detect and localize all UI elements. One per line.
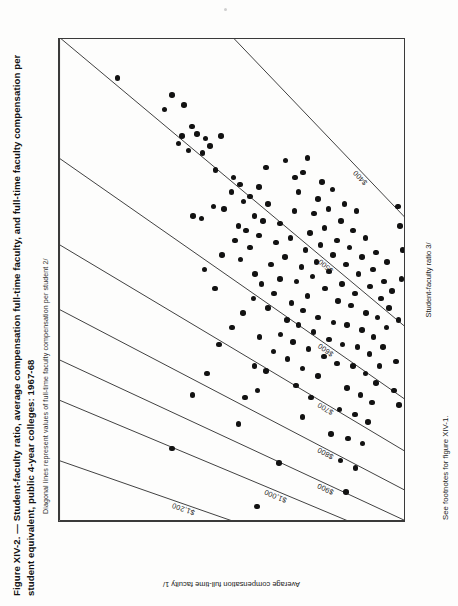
data-point xyxy=(314,259,320,265)
data-point xyxy=(393,359,399,365)
data-point xyxy=(256,233,262,239)
data-point xyxy=(254,504,260,510)
data-point xyxy=(273,240,279,246)
iso-compensation-line xyxy=(59,461,233,522)
data-point xyxy=(169,446,175,452)
y-axis-tick xyxy=(290,521,291,522)
iso-compensation-line xyxy=(59,360,405,521)
y-axis-caption: Average compensation full-time faculty 1… xyxy=(58,578,405,592)
data-point xyxy=(386,305,392,311)
data-point xyxy=(115,75,121,81)
data-point xyxy=(265,305,271,311)
data-point xyxy=(204,371,210,377)
data-point xyxy=(189,124,195,130)
data-point xyxy=(255,388,261,394)
data-point xyxy=(350,228,356,234)
x-axis-tick xyxy=(404,375,405,376)
data-point xyxy=(252,271,258,277)
data-point xyxy=(259,281,265,287)
x-axis-tick xyxy=(404,157,405,158)
data-point xyxy=(229,325,235,331)
data-point xyxy=(352,291,358,297)
x-axis-tick xyxy=(404,326,405,327)
data-point xyxy=(282,254,288,260)
x-axis-tick xyxy=(404,399,405,400)
data-point xyxy=(369,400,375,406)
data-point xyxy=(276,460,282,466)
data-point xyxy=(343,489,349,495)
data-point xyxy=(315,196,321,202)
data-point xyxy=(352,412,358,418)
data-point xyxy=(252,213,258,219)
x-axis-tick xyxy=(404,133,405,134)
data-point xyxy=(389,288,395,294)
data-point xyxy=(236,223,242,229)
data-point xyxy=(207,143,213,149)
data-point xyxy=(243,228,249,234)
data-point xyxy=(292,209,298,215)
data-point xyxy=(179,133,185,139)
data-point xyxy=(391,388,397,394)
iso-compensation-line xyxy=(59,309,405,491)
data-point xyxy=(285,356,291,362)
y-axis-tick xyxy=(233,521,234,522)
data-point xyxy=(370,267,376,273)
data-point xyxy=(400,247,405,253)
data-point xyxy=(363,310,369,316)
data-point xyxy=(194,131,200,137)
y-axis-tick xyxy=(59,521,60,522)
y-axis-tick xyxy=(146,521,147,522)
data-point xyxy=(399,276,405,282)
x-axis-tick xyxy=(404,278,405,279)
x-axis-tick xyxy=(404,230,405,231)
scatter-plot-area: $9,000$10,000$11,000$12,000$13,000$14,00… xyxy=(58,38,405,522)
scanned-page-background: Figure XIV-2. — Student-faculty ratio, a… xyxy=(0,0,458,606)
data-point xyxy=(396,317,402,323)
data-point xyxy=(373,250,379,256)
data-point xyxy=(355,344,361,350)
data-point xyxy=(358,392,364,398)
x-axis-tick xyxy=(404,84,405,85)
plot-svg xyxy=(59,38,405,521)
data-point xyxy=(236,421,242,427)
data-point xyxy=(380,344,386,350)
x-axis-caption: Student-faculty ratio 3/ xyxy=(424,38,433,522)
y-axis-tick xyxy=(377,521,378,522)
x-axis-tick xyxy=(404,520,405,521)
y-axis-tick xyxy=(348,521,349,522)
data-point xyxy=(381,279,387,285)
data-point xyxy=(359,327,365,333)
x-axis-tick xyxy=(404,423,405,424)
data-point xyxy=(326,206,332,212)
y-axis-tick xyxy=(204,521,205,522)
data-point xyxy=(377,363,383,369)
data-point xyxy=(216,342,222,348)
data-point xyxy=(328,431,334,437)
data-point xyxy=(315,373,321,379)
data-point xyxy=(344,322,350,328)
data-point xyxy=(221,206,227,212)
y-axis-tick xyxy=(261,521,262,522)
x-axis-tick xyxy=(404,496,405,497)
data-point xyxy=(252,363,258,369)
data-point xyxy=(190,213,196,219)
data-point xyxy=(318,242,324,248)
figure-title: Figure XIV-2. — Student-faculty ratio, a… xyxy=(10,36,38,596)
data-point xyxy=(299,264,305,270)
y-axis-tick xyxy=(319,521,320,522)
x-axis-tick xyxy=(404,205,405,206)
data-point xyxy=(335,298,341,304)
x-axis-tick xyxy=(404,181,405,182)
data-point xyxy=(288,235,294,241)
iso-compensation-line xyxy=(59,244,405,451)
data-point xyxy=(326,337,332,343)
data-point xyxy=(395,204,401,210)
iso-compensation-line xyxy=(233,38,406,219)
data-point xyxy=(306,346,312,352)
data-point xyxy=(256,184,262,190)
data-point xyxy=(277,276,283,282)
data-point xyxy=(300,170,306,176)
x-axis-tick xyxy=(404,254,405,255)
data-point xyxy=(290,339,296,345)
data-point xyxy=(350,363,356,369)
